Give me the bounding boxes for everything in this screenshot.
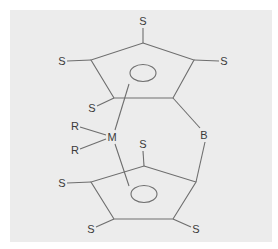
metal-label: M (107, 131, 116, 143)
substituent-label: S (58, 55, 65, 67)
bond (143, 151, 144, 166)
substituent-label: S (139, 15, 146, 27)
metal-ligand-bond (80, 127, 106, 135)
bond (194, 60, 219, 61)
ligand-label: R (71, 144, 79, 156)
substituent-label: S (88, 102, 95, 114)
bottom-ring-aromatic-circle (131, 186, 157, 203)
bond (67, 60, 91, 61)
bond (173, 219, 191, 227)
metallocene-diagram: S S S S S S S S M R R B (0, 0, 278, 249)
bottom-ring (91, 166, 196, 219)
metal-ring-bond (115, 144, 129, 186)
ligand-label: R (71, 120, 79, 132)
bridge-bond (173, 98, 200, 128)
metal-ring-bond (115, 84, 129, 130)
substituent-label: S (58, 177, 65, 189)
metal-ligand-bond (80, 139, 106, 149)
substituent-label: S (87, 223, 94, 235)
bond (96, 219, 114, 227)
bridge-bond (196, 142, 205, 182)
substituent-label: S (192, 223, 199, 235)
substituent-label: S (139, 138, 146, 150)
top-ring-aromatic-circle (130, 65, 156, 82)
top-ring (91, 43, 194, 98)
substituent-label: S (220, 55, 227, 67)
bond (67, 182, 91, 183)
bond (97, 98, 114, 106)
bridge-label: B (200, 129, 207, 141)
